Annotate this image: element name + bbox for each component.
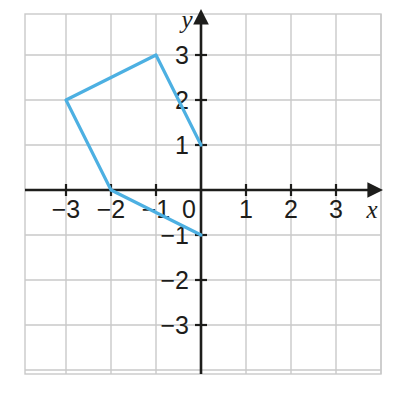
- y-axis-label: y: [178, 6, 193, 33]
- grid-frame: [25, 14, 381, 374]
- y-tick-label: −2: [160, 266, 189, 294]
- x-tick-label: 1: [239, 195, 253, 223]
- x-axis-label: x: [365, 196, 377, 223]
- coordinate-plane-figure: −3−2−1123321−1−2−30xy: [0, 0, 395, 396]
- y-tick-label: 3: [175, 41, 189, 69]
- x-tick-label: 3: [329, 195, 343, 223]
- graph-canvas: −3−2−1123321−1−2−30xy: [0, 0, 395, 396]
- x-tick-label: −3: [52, 195, 81, 223]
- y-tick-label: −3: [160, 311, 189, 339]
- grid-lines: [25, 14, 381, 374]
- x-tick-label: 2: [284, 195, 298, 223]
- x-tick-label: −2: [97, 195, 126, 223]
- origin-label: 0: [182, 195, 196, 223]
- y-tick-label: 1: [175, 131, 189, 159]
